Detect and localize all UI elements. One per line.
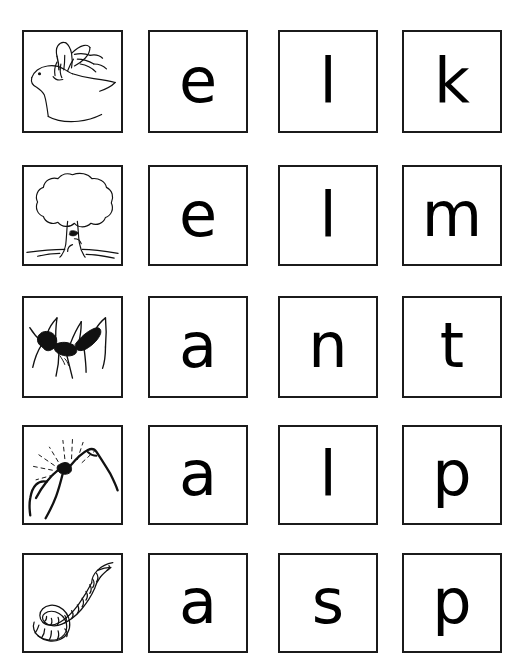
elm-tree-illustration (24, 167, 121, 264)
letter-glyph: l (319, 443, 336, 505)
letter-cell[interactable]: m (402, 165, 502, 266)
letter-cell[interactable]: k (402, 30, 502, 133)
picture-cell-elk[interactable] (22, 30, 123, 133)
letter-glyph: t (440, 315, 464, 377)
letter-cell[interactable]: n (278, 296, 378, 398)
worksheet-row: a s p (0, 553, 523, 653)
letter-cell[interactable]: s (278, 553, 378, 653)
letter-cell[interactable]: a (148, 425, 248, 525)
letter-glyph: p (432, 443, 471, 505)
alp-illustration (24, 427, 121, 523)
letter-glyph: m (422, 184, 482, 246)
ant-illustration (24, 298, 121, 396)
worksheet-row: e l k (0, 30, 523, 133)
letter-cell[interactable]: p (402, 425, 502, 525)
letter-cell[interactable]: t (402, 296, 502, 398)
picture-cell-alp[interactable] (22, 425, 123, 525)
worksheet-page: e l k (0, 0, 523, 672)
picture-cell-asp[interactable] (22, 553, 123, 653)
elk-illustration (24, 32, 121, 131)
letter-cell[interactable]: e (148, 30, 248, 133)
worksheet-row: a l p (0, 425, 523, 525)
worksheet-row: e l m (0, 165, 523, 266)
letter-glyph: a (179, 443, 217, 505)
letter-cell[interactable]: l (278, 30, 378, 133)
letter-glyph: e (179, 50, 217, 112)
letter-glyph: s (312, 571, 344, 633)
letter-glyph: n (308, 315, 347, 377)
picture-cell-ant[interactable] (22, 296, 123, 398)
letter-cell[interactable]: p (402, 553, 502, 653)
picture-cell-elm[interactable] (22, 165, 123, 266)
letter-cell[interactable]: l (278, 165, 378, 266)
letter-glyph: l (319, 184, 336, 246)
worksheet-row: a n t (0, 296, 523, 398)
letter-glyph: a (179, 315, 217, 377)
asp-illustration (24, 555, 121, 651)
letter-cell[interactable]: a (148, 296, 248, 398)
letter-glyph: l (319, 50, 336, 112)
letter-cell[interactable]: l (278, 425, 378, 525)
letter-cell[interactable]: a (148, 553, 248, 653)
letter-glyph: a (179, 571, 217, 633)
letter-glyph: k (434, 50, 470, 112)
letter-glyph: p (432, 571, 471, 633)
letter-glyph: e (179, 184, 217, 246)
letter-cell[interactable]: e (148, 165, 248, 266)
